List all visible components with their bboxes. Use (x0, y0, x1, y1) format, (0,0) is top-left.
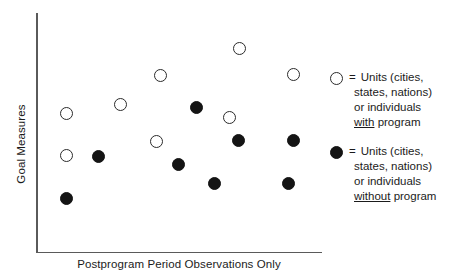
data-point-open-2 (60, 149, 73, 162)
open-circle-icon (330, 72, 343, 85)
x-axis-label: Postprogram Period Observations Only (36, 258, 322, 270)
data-point-filled-4 (172, 158, 185, 171)
y-axis-line (36, 13, 38, 253)
x-axis-line (36, 252, 322, 254)
legend-text-line-4: without program (354, 189, 462, 204)
data-point-filled-2 (92, 150, 105, 163)
legend-text-line-2: states, nations) (354, 159, 462, 174)
legend-entry-with-program: =Units (cities,states, nations)or indivi… (330, 70, 462, 130)
legend-text-line-3: or individuals (354, 174, 462, 189)
filled-circle-icon (330, 146, 343, 159)
legend: =Units (cities,states, nations)or indivi… (330, 70, 462, 218)
data-point-filled-3 (190, 101, 203, 114)
plot-area (0, 0, 330, 278)
legend-underlined-keyword: without (354, 190, 390, 202)
data-point-filled-7 (208, 177, 221, 190)
legend-text-line-2: states, nations) (354, 85, 462, 100)
scatter-chart-figure: Goal Measures Postprogram Period Observa… (0, 0, 462, 278)
data-point-filled-5 (232, 134, 245, 147)
data-point-open-5 (233, 42, 246, 55)
legend-keyword-suffix: program (374, 116, 420, 128)
data-point-open-1 (60, 107, 73, 120)
legend-text-line-1: Units (cities, (361, 70, 424, 85)
data-point-open-4 (154, 69, 167, 82)
y-axis-label: Goal Measures (15, 64, 33, 224)
legend-entry-without-program: =Units (cities,states, nations)or indivi… (330, 144, 462, 204)
data-point-open-8 (287, 68, 300, 81)
legend-text-line-1: Units (cities, (361, 144, 424, 159)
data-point-open-6 (150, 135, 163, 148)
data-point-filled-6 (287, 134, 300, 147)
data-point-filled-8 (282, 177, 295, 190)
legend-keyword-suffix: program (390, 190, 436, 202)
legend-underlined-keyword: with (354, 116, 374, 128)
legend-text-line-3: or individuals (354, 100, 462, 115)
data-point-open-7 (223, 111, 236, 124)
legend-text-line-4: with program (354, 115, 462, 130)
data-point-filled-1 (60, 192, 73, 205)
legend-equals-sign: = (349, 70, 356, 85)
legend-equals-sign: = (349, 144, 356, 159)
data-point-open-3 (114, 98, 127, 111)
